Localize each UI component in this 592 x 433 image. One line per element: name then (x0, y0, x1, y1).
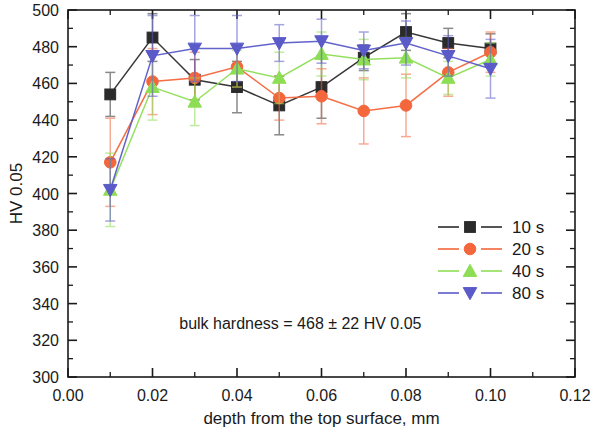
x-tick-label: 0.04 (221, 387, 252, 404)
series-80-s (104, 16, 498, 222)
legend-label: 20 s (512, 240, 544, 259)
marker-square (465, 222, 476, 233)
marker-circle (400, 100, 412, 112)
legend-label: 10 s (512, 218, 544, 237)
y-axis-title: HV 0.05 (7, 163, 26, 224)
x-tick-label: 0.02 (137, 387, 168, 404)
legend: 10 s20 s40 s80 s (438, 218, 544, 303)
marker-circle (358, 105, 370, 117)
marker-triangle-up (188, 95, 202, 107)
series-markers (104, 46, 496, 168)
series-markers (104, 36, 498, 197)
y-tick-label: 360 (32, 259, 59, 276)
series-markers (104, 47, 498, 195)
error-bars (105, 32, 495, 227)
series-line (110, 32, 490, 105)
bulk-hardness-annotation: bulk hardness = 468 ± 22 HV 0.05 (179, 315, 421, 332)
y-tick-label: 380 (32, 222, 59, 239)
marker-triangle-down (484, 63, 498, 75)
series-line (110, 52, 490, 162)
series-40-s (104, 32, 498, 227)
y-tick-label: 440 (32, 112, 59, 129)
series-line (110, 41, 490, 190)
x-tick-label: 0.06 (306, 387, 337, 404)
error-bars (105, 32, 495, 206)
y-tick-label: 340 (32, 296, 59, 313)
marker-circle (464, 243, 476, 255)
y-tick-label: 420 (32, 149, 59, 166)
legend-label: 40 s (512, 262, 544, 281)
y-tick-label: 300 (32, 369, 59, 386)
hardness-depth-plot: 0.000.020.040.060.080.100.12300320340360… (0, 0, 592, 433)
y-tick-label: 400 (32, 186, 59, 203)
series-line (110, 54, 490, 190)
marker-circle (316, 90, 328, 102)
x-axis-title: depth from the top surface, mm (203, 409, 439, 428)
marker-triangle-down (463, 288, 477, 300)
error-bars (105, 14, 495, 135)
y-tick-label: 460 (32, 75, 59, 92)
marker-triangle-up (463, 264, 477, 276)
x-tick-label: 0.12 (559, 387, 590, 404)
series-markers (105, 27, 496, 111)
error-bars (105, 16, 495, 222)
series-10-s (105, 14, 496, 135)
x-tick-label: 0.08 (390, 387, 421, 404)
y-tick-label: 320 (32, 332, 59, 349)
legend-label: 80 s (512, 284, 544, 303)
chart-figure: 0.000.020.040.060.080.100.12300320340360… (0, 0, 592, 433)
y-tick-label: 480 (32, 39, 59, 56)
x-tick-label: 0.10 (475, 387, 506, 404)
x-tick-label: 0.00 (52, 387, 83, 404)
y-tick-label: 500 (32, 2, 59, 19)
marker-square (105, 89, 116, 100)
series-20-s (104, 32, 496, 206)
